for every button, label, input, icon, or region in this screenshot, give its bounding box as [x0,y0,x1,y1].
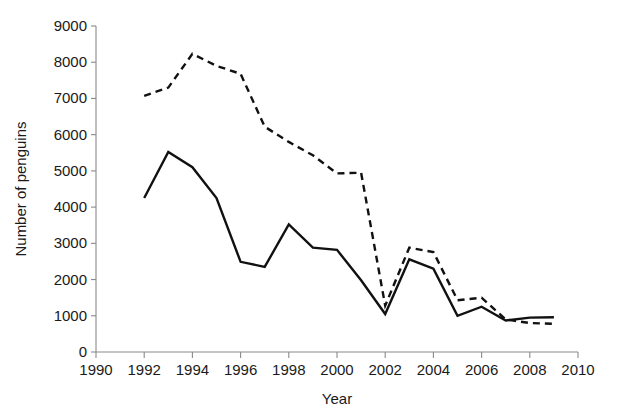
series-dashed-series [144,54,554,324]
y-tick-label: 1000 [54,307,87,324]
x-tick-label: 2000 [320,361,353,378]
y-tick-label: 5000 [54,162,87,179]
x-tick-label: 2006 [465,361,498,378]
x-axis-tick-labels: 1990199219941996199820002002200420062008… [79,361,594,378]
x-axis-title: Year [322,390,352,407]
y-axis-ticks [91,26,96,352]
x-tick-label: 2008 [513,361,546,378]
y-tick-label: 0 [79,343,87,360]
y-tick-label: 3000 [54,234,87,251]
y-tick-label: 7000 [54,89,87,106]
chart-canvas: 0100020003000400050006000700080009000 19… [0,0,618,419]
y-axis-title: Number of penguins [12,121,29,256]
x-axis: 1990199219941996199820002002200420062008… [79,352,594,378]
y-tick-label: 8000 [54,53,87,70]
x-tick-label: 1992 [128,361,161,378]
y-tick-label: 2000 [54,271,87,288]
y-axis: 0100020003000400050006000700080009000 [54,17,96,360]
series-solid-series [144,152,554,320]
x-tick-label: 2002 [369,361,402,378]
y-axis-tick-labels: 0100020003000400050006000700080009000 [54,17,87,360]
y-tick-label: 9000 [54,17,87,34]
data-series-group [144,54,554,324]
x-tick-label: 1996 [224,361,257,378]
y-tick-label: 4000 [54,198,87,215]
x-tick-label: 2004 [417,361,450,378]
x-tick-label: 2010 [561,361,594,378]
x-tick-label: 1994 [176,361,209,378]
x-axis-ticks [96,352,578,358]
x-tick-label: 1990 [79,361,112,378]
penguin-population-chart: 0100020003000400050006000700080009000 19… [0,0,618,419]
y-tick-label: 6000 [54,126,87,143]
x-tick-label: 1998 [272,361,305,378]
